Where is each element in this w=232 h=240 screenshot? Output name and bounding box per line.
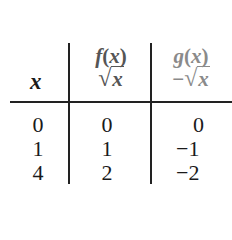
header-f: f(x) √x <box>80 45 142 90</box>
header-g-expr: −√x <box>160 67 222 90</box>
header-g: g(x) −√x <box>160 45 222 90</box>
header-f-expr: √x <box>80 67 142 90</box>
cell-g-0: 0 <box>193 114 204 136</box>
cell-f-2: 2 <box>92 162 122 184</box>
cell-g-1: −1 <box>176 138 199 160</box>
header-divider <box>10 101 232 103</box>
header-x: x <box>30 71 42 93</box>
cell-f-0: 0 <box>92 114 122 136</box>
cell-x-2: 4 <box>23 162 53 184</box>
column-divider-2 <box>150 43 152 184</box>
cell-x-1: 1 <box>23 138 53 160</box>
header-f-name: f(x) <box>80 45 142 67</box>
column-divider-1 <box>68 43 70 184</box>
cell-f-1: 1 <box>92 138 122 160</box>
sqrt-icon: √ <box>98 65 111 91</box>
header-g-name: g(x) <box>160 45 222 67</box>
cell-g-2: −2 <box>176 162 199 184</box>
sqrt-icon: √ <box>184 65 197 91</box>
cell-x-0: 0 <box>23 114 53 136</box>
